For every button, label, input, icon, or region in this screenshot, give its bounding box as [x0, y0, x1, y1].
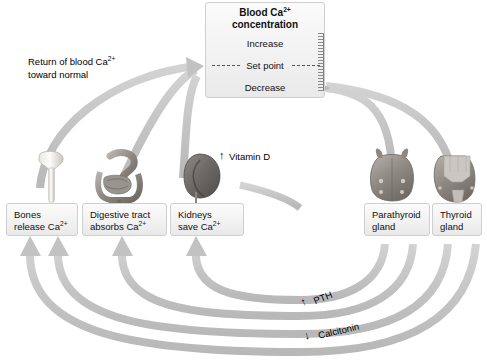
label-return-line1: Return of blood Ca	[28, 56, 108, 67]
label-return-sup: 2+	[108, 55, 116, 62]
label-return-of-blood-calcium: Return of blood Ca2+ toward normal	[28, 56, 115, 81]
down-arrow-icon-calcitonin: ↓	[303, 330, 311, 342]
label-return-line2: toward normal	[28, 69, 88, 80]
label-vitamin-d: Vitamin D	[229, 151, 270, 164]
up-arrow-icon-pth: ↑	[299, 296, 308, 308]
up-arrow-icon-vitamin-d: ↑	[219, 150, 225, 161]
label-pth: PTH	[312, 289, 334, 308]
annotation-layer: Return of blood Ca2+ toward normal ↑ Vit…	[0, 0, 487, 362]
label-calcitonin: Calcitonin	[317, 321, 360, 343]
diagram-canvas: Blood Ca2+ concentration Increase Set po…	[0, 0, 487, 362]
